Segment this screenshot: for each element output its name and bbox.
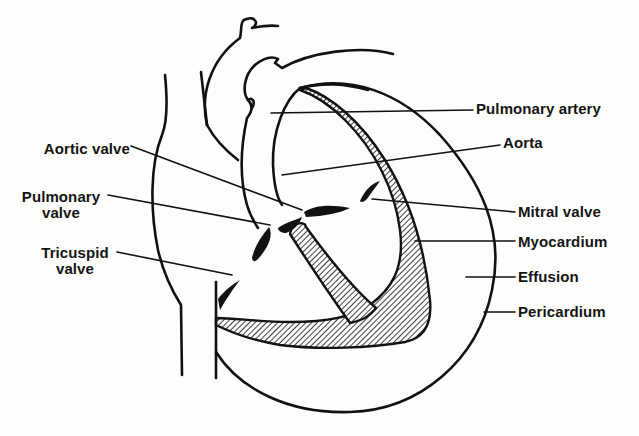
label-text: Aortic valve <box>44 140 130 157</box>
pulmonary-valve-leaflet <box>252 227 271 261</box>
leader-aortic-valve <box>131 146 302 210</box>
label-text-line2: valve <box>14 205 108 221</box>
leader-mitral-valve <box>372 199 515 212</box>
label-text: Aorta <box>503 134 543 151</box>
label-aortic-valve: Aortic valve <box>28 141 130 157</box>
label-text-line1: Pulmonary <box>14 189 108 205</box>
aortic-valve-leaflet <box>304 206 350 217</box>
aortic-arch <box>205 18 278 160</box>
label-text: Pulmonary artery <box>476 100 601 117</box>
label-pulmonary-valve: Pulmonary valve <box>14 189 108 221</box>
label-text-line2: valve <box>34 261 116 277</box>
label-aorta: Aorta <box>503 135 543 151</box>
label-pulmonary-artery: Pulmonary artery <box>476 101 601 117</box>
label-pericardium: Pericardium <box>518 304 606 320</box>
label-text-line1: Tricuspid <box>34 245 116 261</box>
label-text: Mitral valve <box>518 203 601 220</box>
tricuspid-valve-leaflet <box>218 280 240 310</box>
myocardium-band <box>216 88 430 348</box>
label-text: Effusion <box>518 268 579 285</box>
leader-pulmonary-artery <box>271 110 473 113</box>
leader-tricuspid-valve <box>117 252 232 275</box>
vena-cava-outline <box>152 72 207 375</box>
label-text: Pericardium <box>518 303 606 320</box>
label-text: Myocardium <box>518 233 607 250</box>
label-effusion: Effusion <box>518 269 579 285</box>
label-mitral-valve: Mitral valve <box>518 204 601 220</box>
label-myocardium: Myocardium <box>518 234 607 250</box>
label-tricuspid-valve: Tricuspid valve <box>34 245 116 277</box>
heart-outer-border <box>273 84 368 205</box>
septum <box>290 223 376 323</box>
